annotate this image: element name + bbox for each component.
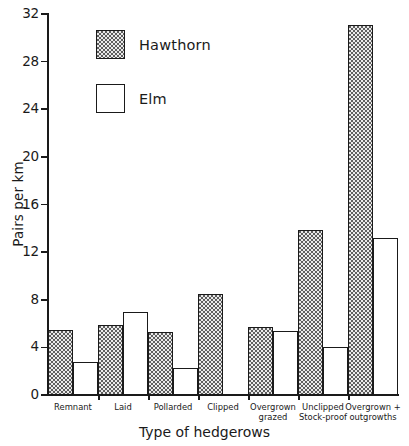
y-tick-label-28: 28 (0, 55, 39, 69)
y-tick-label-0: 0 (0, 388, 39, 402)
x-group-separator-1 (98, 395, 100, 400)
bar-hawthorn-6 (348, 25, 373, 395)
x-group-separator-6 (348, 395, 350, 400)
x-axis-title: Type of hedgerows (0, 424, 409, 440)
x-group-separator-2 (148, 395, 150, 400)
y-tick-4 (41, 347, 48, 349)
y-axis-title: Pairs per km (10, 124, 26, 284)
bar-hawthorn-4 (248, 327, 273, 395)
y-tick-32 (41, 13, 48, 15)
y-tick-12 (41, 251, 48, 253)
hawthorn-swatch-icon (96, 30, 125, 59)
bar-elm-0 (73, 362, 98, 395)
y-tick-8 (41, 299, 48, 301)
bar-hawthorn-5 (298, 230, 323, 395)
x-group-separator-3 (198, 395, 200, 400)
bar-chart: 048121620242832 Pairs per km Type of hed… (0, 0, 409, 446)
x-group-separator-4 (248, 395, 250, 400)
y-tick-16 (41, 204, 48, 206)
legend-label-elm: Elm (139, 91, 167, 107)
y-tick-0 (41, 394, 48, 396)
legend-item-elm: Elm (96, 84, 167, 113)
y-tick-label-8: 8 (0, 293, 39, 307)
elm-swatch-icon (96, 84, 125, 113)
legend-item-hawthorn: Hawthorn (96, 30, 211, 59)
bar-elm-1 (123, 312, 148, 395)
y-tick-label-32: 32 (0, 7, 39, 21)
x-group-separator-5 (298, 395, 300, 400)
bar-elm-2 (173, 368, 198, 395)
bar-hawthorn-2 (148, 332, 173, 395)
y-tick-24 (41, 108, 48, 110)
legend-label-hawthorn: Hawthorn (139, 37, 211, 53)
bar-hawthorn-3 (198, 294, 223, 395)
plot-area (48, 14, 398, 395)
bar-elm-6 (373, 238, 398, 395)
y-tick-label-4: 4 (0, 340, 39, 354)
x-category-label-6: Overgrown +outgrowths (344, 402, 402, 422)
bar-hawthorn-1 (98, 325, 123, 395)
bar-elm-4 (273, 331, 298, 395)
y-tick-20 (41, 156, 48, 158)
bar-elm-5 (323, 347, 348, 395)
bar-hawthorn-0 (48, 330, 73, 395)
y-tick-label-24: 24 (0, 102, 39, 116)
y-tick-28 (41, 61, 48, 63)
